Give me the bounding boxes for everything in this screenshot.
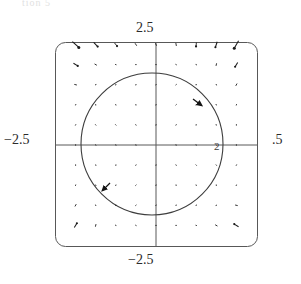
- phase-portrait-figure: 2.5 −2.5 −2.5 .5 2: [0, 0, 301, 284]
- field-arrow: [95, 224, 96, 227]
- field-arrow: [235, 205, 238, 206]
- field-arrow: [175, 125, 176, 126]
- field-arrow-head: [97, 45, 99, 47]
- field-arrow: [236, 164, 237, 165]
- phase-portrait-svg: [0, 0, 301, 284]
- axis-label-bottom: −2.5: [128, 252, 153, 268]
- field-arrow: [135, 225, 136, 226]
- field-arrow: [175, 64, 176, 65]
- field-arrow-head: [233, 223, 235, 225]
- field-arrow-head: [195, 45, 197, 47]
- field-arrow: [75, 124, 76, 125]
- field-arrow: [216, 63, 217, 66]
- figure-page: tion 5 2.5 −2.5 −2.5 .5 2: [0, 0, 301, 284]
- field-arrow: [156, 205, 157, 206]
- axis-label-top: 2.5: [136, 20, 154, 36]
- field-arrow: [95, 145, 96, 146]
- field-arrow-head: [214, 46, 216, 48]
- field-arrow-head: [76, 222, 78, 224]
- field-arrow: [136, 124, 137, 125]
- axis-label-left: −2.5: [4, 132, 29, 148]
- field-arrow: [74, 84, 77, 85]
- field-arrow: [135, 165, 136, 166]
- field-arrow: [176, 164, 177, 165]
- field-arrow: [176, 43, 177, 46]
- field-arrow-head: [116, 45, 118, 47]
- field-arrow: [156, 84, 157, 85]
- field-arrow-head: [77, 46, 80, 49]
- axis-label-right: .5: [272, 132, 283, 148]
- field-arrow-head: [77, 65, 79, 67]
- x-tick-label-2: 2: [214, 140, 220, 152]
- field-arrow-head: [234, 66, 236, 68]
- field-arrow-head: [233, 47, 236, 50]
